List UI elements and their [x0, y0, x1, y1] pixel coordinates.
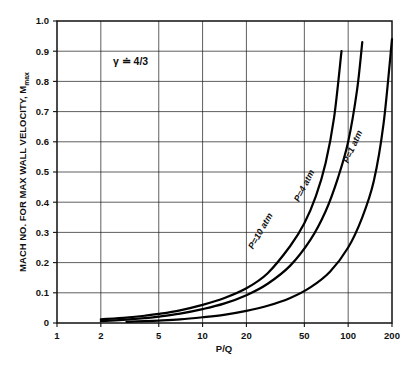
x-tick-label: 50: [299, 330, 310, 341]
y-tick-label: 0.5: [36, 166, 50, 177]
y-tick-label: 0.4: [36, 197, 50, 208]
gamma-annotation: γ ≐ 4/3: [113, 55, 148, 67]
y-tick-label: 0.9: [36, 46, 49, 57]
x-tick-label: 10: [197, 330, 208, 341]
x-tick-label: 2: [98, 330, 103, 341]
y-tick-label: 0.2: [36, 257, 49, 268]
chart-canvas: 125102050100200 00.10.20.30.40.50.60.70.…: [0, 0, 419, 368]
y-tick-label: 0.6: [36, 136, 49, 147]
y-tick-label: 0.8: [36, 76, 49, 87]
annotations-group: γ ≐ 4/3: [113, 55, 148, 67]
x-tick-label: 20: [241, 330, 252, 341]
y-tick-label: 0.3: [36, 227, 49, 238]
y-axis-title-subscript: max: [23, 72, 30, 86]
y-tick-label: 0.1: [36, 287, 50, 298]
y-axis-title-main: MACH NO. FOR MAX WALL VELOCITY, M: [17, 86, 28, 272]
y-tick-label: 1.0: [36, 15, 49, 26]
x-tick-label: 100: [340, 330, 356, 341]
x-tick-label: 1: [54, 330, 60, 341]
chart-figure: 125102050100200 00.10.20.30.40.50.60.70.…: [0, 0, 419, 368]
x-axis-title: P/Q: [216, 343, 232, 354]
y-tick-label: 0.7: [36, 106, 49, 117]
x-tick-label: 200: [384, 330, 400, 341]
x-tick-label: 5: [156, 330, 162, 341]
y-tick-label: 0: [44, 317, 49, 328]
